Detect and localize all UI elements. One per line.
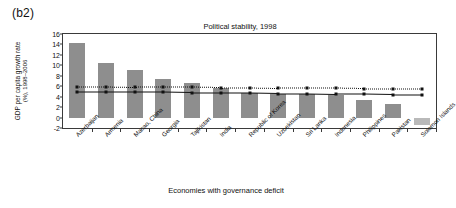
bar-indonesia bbox=[328, 95, 344, 118]
y-axis-tick-label: 4 bbox=[56, 93, 60, 100]
x-axis-tick bbox=[120, 128, 121, 132]
line-segment-dashed-reference bbox=[278, 88, 307, 89]
x-axis-tick bbox=[321, 128, 322, 132]
y-axis-tick bbox=[60, 34, 63, 35]
x-axis-title: Economies with governance deficit bbox=[0, 186, 452, 195]
x-axis-tick bbox=[436, 128, 437, 132]
y-axis-tick bbox=[60, 96, 63, 97]
line-segment-solid-reference bbox=[393, 94, 422, 95]
y-axis-tick-label: 10 bbox=[52, 62, 60, 69]
x-axis-tick bbox=[149, 128, 150, 132]
data-point-marker-dashed-reference bbox=[76, 85, 79, 88]
x-axis-tick bbox=[235, 128, 236, 132]
x-axis-tick bbox=[178, 128, 179, 132]
y-axis-tick-label: 0 bbox=[56, 114, 60, 121]
data-point-marker-dashed-reference bbox=[334, 87, 337, 90]
data-point-marker-dashed-reference bbox=[305, 87, 308, 90]
data-point-marker-dashed-reference bbox=[363, 87, 366, 90]
y-axis-tick bbox=[60, 54, 63, 55]
data-point-marker-solid-reference bbox=[248, 92, 251, 95]
x-axis-tick bbox=[379, 128, 380, 132]
x-axis-tick bbox=[293, 128, 294, 132]
y-axis-tick bbox=[60, 128, 63, 129]
y-axis-tick-label: -2 bbox=[54, 125, 60, 132]
data-point-marker-dashed-reference bbox=[248, 86, 251, 89]
line-segment-dashed-reference bbox=[106, 86, 135, 88]
data-point-marker-solid-reference bbox=[133, 91, 136, 94]
bar-philippines bbox=[356, 100, 372, 117]
y-axis-title-line1: GDP per capita growth rate bbox=[14, 33, 22, 129]
line-segment-dashed-reference bbox=[393, 88, 422, 89]
panel-label: (b2) bbox=[12, 6, 34, 20]
line-segment-dashed-reference bbox=[77, 86, 106, 87]
data-point-marker-solid-reference bbox=[391, 93, 394, 96]
bar-sri-lanka bbox=[299, 94, 315, 118]
data-point-marker-solid-reference bbox=[76, 91, 79, 94]
line-segment-solid-reference bbox=[77, 92, 106, 93]
bar-azerbaijan bbox=[69, 43, 85, 117]
line-segment-solid-reference bbox=[135, 92, 164, 93]
y-axis-tick bbox=[60, 75, 63, 76]
line-segment-dashed-reference bbox=[307, 88, 336, 89]
data-point-marker-solid-reference bbox=[420, 93, 423, 96]
line-segment-dashed-reference bbox=[364, 88, 393, 89]
data-point-marker-solid-reference bbox=[191, 92, 194, 95]
line-segment-dashed-reference bbox=[249, 87, 278, 89]
y-axis-tick bbox=[60, 65, 63, 66]
line-segment-dashed-reference bbox=[135, 87, 164, 88]
y-axis-tick bbox=[60, 117, 63, 118]
y-axis-tick bbox=[60, 107, 63, 108]
data-point-marker-dashed-reference bbox=[420, 87, 423, 90]
line-segment-solid-reference bbox=[106, 92, 135, 93]
data-point-marker-dashed-reference bbox=[277, 87, 280, 90]
bar-pakistan bbox=[385, 104, 401, 118]
line-segment-solid-reference bbox=[278, 93, 307, 94]
y-axis-tick bbox=[60, 86, 63, 87]
line-segment-solid-reference bbox=[336, 94, 365, 95]
y-axis-title-line2: (%), 1998–2006 bbox=[22, 33, 30, 129]
y-axis-tick-label: 12 bbox=[52, 51, 60, 58]
x-axis-tick bbox=[92, 128, 93, 132]
y-axis-tick-label: 8 bbox=[56, 72, 60, 79]
y-axis-tick-label: 16 bbox=[52, 31, 60, 38]
x-axis-tick bbox=[407, 128, 408, 132]
x-axis-tick bbox=[350, 128, 351, 132]
y-axis-tick-label: 14 bbox=[52, 41, 60, 48]
x-axis-tick bbox=[264, 128, 265, 132]
y-axis-tick-label: 6 bbox=[56, 83, 60, 90]
data-point-marker-solid-reference bbox=[305, 92, 308, 95]
bar-republic-of-korea bbox=[241, 93, 257, 118]
data-point-marker-solid-reference bbox=[105, 91, 108, 94]
data-point-marker-dashed-reference bbox=[133, 86, 136, 89]
data-point-marker-solid-reference bbox=[219, 92, 222, 95]
y-axis-tick bbox=[60, 44, 63, 45]
x-axis-tick bbox=[206, 128, 207, 132]
line-segment-solid-reference bbox=[221, 93, 250, 94]
line-segment-solid-reference bbox=[364, 94, 393, 96]
data-point-marker-dashed-reference bbox=[391, 87, 394, 90]
data-point-marker-dashed-reference bbox=[105, 85, 108, 88]
line-segment-dashed-reference bbox=[221, 87, 250, 88]
data-point-marker-dashed-reference bbox=[219, 86, 222, 89]
line-segment-solid-reference bbox=[192, 93, 221, 94]
y-axis-title: GDP per capita growth rate (%), 1998–200… bbox=[14, 33, 28, 129]
data-point-marker-dashed-reference bbox=[162, 86, 165, 89]
data-point-marker-solid-reference bbox=[363, 93, 366, 96]
data-point-marker-solid-reference bbox=[334, 93, 337, 96]
data-point-marker-solid-reference bbox=[162, 91, 165, 94]
data-point-marker-dashed-reference bbox=[191, 86, 194, 89]
data-point-marker-solid-reference bbox=[277, 92, 280, 95]
line-segment-solid-reference bbox=[307, 93, 336, 95]
chart-title: Political stability, 1998 bbox=[160, 22, 320, 31]
y-axis-tick-label: 2 bbox=[56, 104, 60, 111]
line-segment-dashed-reference bbox=[163, 87, 192, 88]
line-segment-dashed-reference bbox=[336, 88, 365, 90]
